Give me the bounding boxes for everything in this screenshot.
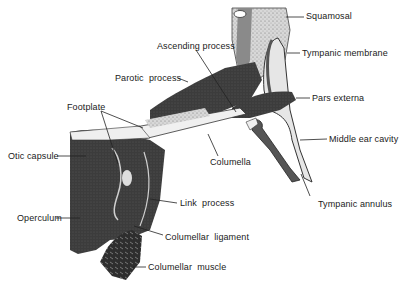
- label-squamosal: Squamosal: [306, 11, 352, 21]
- label-columellar-ligament: Columellar ligament: [165, 232, 249, 242]
- label-footplate: Footplate: [67, 102, 105, 112]
- label-operculum: Operculum: [17, 213, 62, 223]
- label-columella: Columella: [210, 157, 251, 167]
- label-parotic-process: Parotic process: [115, 73, 181, 83]
- label-link-process: Link process: [180, 198, 234, 208]
- label-tympanic-annulus: Tympanic annulus: [318, 199, 392, 209]
- label-tympanic-membrane: Tympanic membrane: [302, 48, 388, 58]
- otic-capsule-shape: [70, 130, 165, 254]
- label-pars-externa: Pars externa: [312, 93, 364, 103]
- label-otic-capsule: Otic capsule: [8, 151, 59, 161]
- label-ascending-process: Ascending process: [157, 41, 235, 51]
- label-middle-ear-cavity: Middle ear cavity: [329, 134, 398, 144]
- label-columellar-muscle: Columellar muscle: [148, 262, 226, 272]
